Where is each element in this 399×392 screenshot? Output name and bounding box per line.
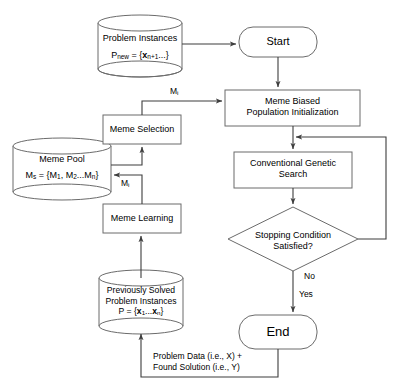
node-conventional-genetic-search-shape bbox=[234, 152, 352, 188]
node-meme-learning-shape bbox=[103, 204, 181, 233]
flowchart-canvas: Problem Instances Pnew = {xn+1...} Start… bbox=[0, 0, 399, 392]
node-previously-solved-shape bbox=[99, 270, 183, 334]
node-start-shape bbox=[239, 27, 317, 57]
feedback-line2: Found Solution (i.e., Y) bbox=[153, 362, 242, 373]
node-problem-instances-shape bbox=[98, 15, 182, 77]
edge-label-feedback: Problem Data (i.e., X) + Found Solution … bbox=[153, 351, 242, 372]
flowchart-shapes-and-edges bbox=[0, 0, 399, 392]
edge-selection-to-init bbox=[142, 101, 222, 115]
node-meme-biased-init-shape bbox=[225, 90, 360, 126]
edge-label-meme-to-init: Mi bbox=[170, 86, 178, 97]
edge-pool-to-selection bbox=[111, 147, 142, 165]
edge-label-yes: Yes bbox=[299, 289, 313, 300]
edge-label-no: No bbox=[304, 271, 315, 282]
feedback-line1: Problem Data (i.e., X) + bbox=[153, 351, 242, 362]
node-end-shape bbox=[239, 315, 317, 349]
node-stopping-condition-shape bbox=[228, 207, 358, 271]
node-meme-selection-shape bbox=[103, 115, 181, 144]
edge-label-learning-to-pool: Mi bbox=[121, 178, 129, 189]
node-meme-pool-shape bbox=[13, 138, 111, 200]
